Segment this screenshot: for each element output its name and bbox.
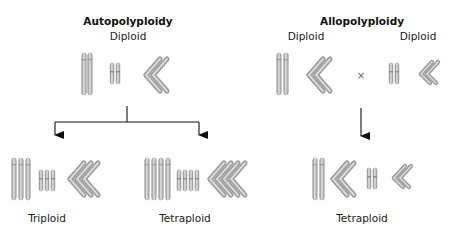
auto-diploid-chromosomes bbox=[82, 53, 167, 95]
branch-arrows bbox=[55, 106, 199, 135]
triploid-chromosomes bbox=[12, 158, 98, 200]
allo-diploid-left-chromosomes bbox=[277, 53, 330, 95]
allo-diploid-right-chromosomes bbox=[389, 62, 438, 84]
polyploidy-diagram bbox=[0, 0, 453, 233]
allo-tetraploid-chromosomes bbox=[313, 158, 411, 200]
auto-tetraploid-chromosomes bbox=[145, 158, 245, 200]
